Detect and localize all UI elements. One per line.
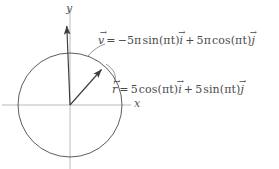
x-axis-label: x: [134, 97, 140, 110]
position-term1-unit-vector: i: [178, 83, 182, 96]
velocity-term2-coeff: 5π: [197, 34, 211, 47]
velocity-term1-unit-vector: i: [180, 34, 184, 47]
position-vector-arrow: [70, 70, 102, 106]
velocity-term1-sign: −: [118, 34, 127, 47]
vector-diagram-figure: y x v=−5πsin(πt)i+5πcos(πt)j r=5cos(πt)i…: [0, 0, 279, 169]
velocity-equation: v=−5πsin(πt)i+5πcos(πt)j: [98, 34, 255, 47]
velocity-term1-function: sin(πt): [141, 34, 179, 47]
position-symbol: r: [112, 83, 117, 96]
y-axis-label: y: [66, 2, 72, 15]
velocity-term2-function: cos(πt): [211, 34, 251, 47]
position-term2-function: sin(πt): [202, 83, 240, 96]
position-equation: r=5cos(πt)i+5sin(πt)j: [112, 83, 244, 96]
position-term1-coeff: 5: [131, 83, 138, 96]
position-term2-unit-vector: j: [240, 83, 244, 96]
velocity-symbol: v: [98, 34, 104, 47]
position-term1-function: cos(πt): [138, 83, 178, 96]
velocity-term1-coeff: 5π: [127, 34, 141, 47]
velocity-term2-unit-vector: j: [251, 34, 255, 47]
